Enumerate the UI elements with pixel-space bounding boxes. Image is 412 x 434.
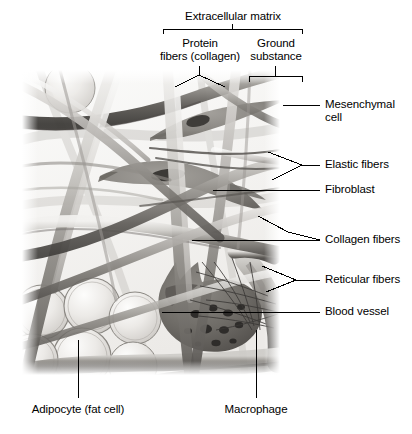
label-protein-fibers-line1: Protein	[156, 37, 244, 51]
connective-tissue-figure: Extracellular matrix Protein fibers (col…	[0, 0, 412, 434]
label-elastic-fibers: Elastic fibers	[325, 158, 389, 172]
figure-canvas	[0, 0, 412, 434]
bracket-extracellular-matrix	[163, 24, 302, 34]
label-protein-fibers-line2: fibers (collagen)	[156, 50, 244, 64]
label-collagen-fibers: Collagen fibers	[325, 233, 400, 247]
label-ground-substance-line2: substance	[245, 50, 307, 64]
label-mesenchymal-cell-line1: Mesenchymal	[325, 98, 395, 112]
tissue-illustration	[6, 63, 286, 390]
label-reticular-fibers: Reticular fibers	[325, 273, 400, 287]
label-adipocyte: Adipocyte (fat cell)	[12, 403, 144, 417]
label-ground-substance-line1: Ground	[245, 37, 307, 51]
label-fibroblast: Fibroblast	[325, 183, 375, 197]
label-mesenchymal-cell-line2: cell	[325, 111, 342, 125]
label-macrophage: Macrophage	[208, 403, 304, 417]
label-blood-vessel: Blood vessel	[325, 305, 389, 319]
label-extracellular-matrix: Extracellular matrix	[160, 10, 306, 24]
